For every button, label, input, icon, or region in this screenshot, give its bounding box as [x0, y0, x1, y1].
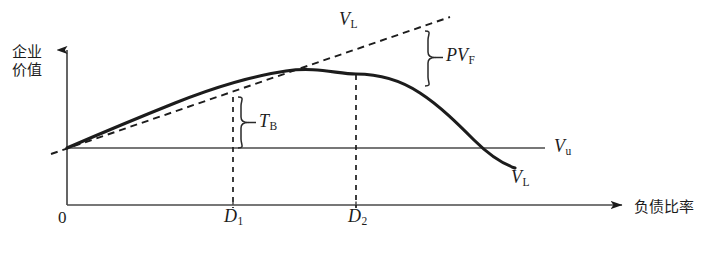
curve-label-vl-bottom-base: V — [511, 167, 522, 187]
tick-label-d2-base: D — [348, 206, 361, 226]
tick-label-d2-subscript: 2 — [361, 215, 367, 227]
pvf-brace — [425, 31, 435, 86]
curve-label-vl-bottom: VL — [511, 168, 530, 189]
bracket-label-pvf: PVF — [446, 46, 475, 67]
tick-label-d1: D1 — [224, 207, 243, 228]
vl-solid-curve — [67, 70, 515, 168]
bracket-label-tb-subscript: B — [269, 120, 277, 132]
y-axis-label: 企业 价值 — [12, 44, 42, 79]
curve-label-vl-top: VL — [339, 10, 358, 31]
curve-label-vu-base: V — [554, 136, 565, 156]
curve-label-vl-bottom-subscript: L — [522, 176, 530, 188]
y-axis-label-line1: 企业 — [12, 44, 42, 62]
tick-label-d1-subscript: 1 — [237, 215, 243, 227]
bracket-label-tb: TB — [259, 112, 277, 133]
tick-label-d1-base: D — [224, 206, 237, 226]
vl-dashed-line — [51, 17, 450, 154]
tick-label-d2: D2 — [348, 207, 367, 228]
curve-label-vu-subscript: u — [565, 145, 571, 157]
curve-label-vl-top-subscript: L — [350, 18, 358, 30]
x-axis-label: 负债比率 — [634, 200, 694, 215]
bracket-label-tb-base: T — [259, 111, 269, 131]
bracket-label-pvf-base: PV — [446, 45, 468, 65]
y-axis-label-line2: 价值 — [12, 62, 42, 80]
capital-structure-tradeoff-figure: 企业 价值 负债比率 0 D1 D2 VL VL Vu TB PVF — [0, 0, 723, 253]
curve-label-vu: Vu — [554, 137, 571, 158]
curve-label-vl-top-base: V — [339, 9, 350, 29]
origin-label: 0 — [58, 209, 67, 226]
bracket-label-pvf-subscript: F — [468, 54, 475, 66]
tb-brace — [238, 97, 248, 148]
